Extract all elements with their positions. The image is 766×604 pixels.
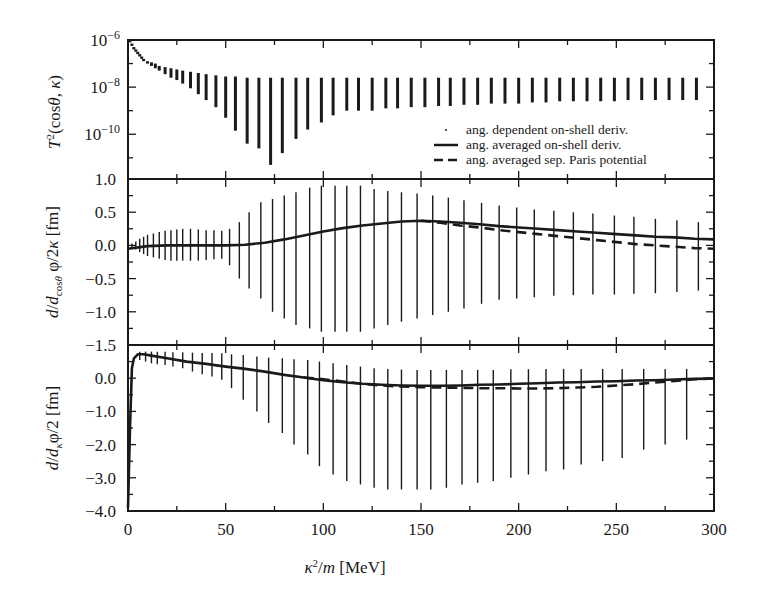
top-panel-ylabel: T2(cosθ, κ) (44, 75, 64, 149)
y-tick-label: −4.0 (85, 502, 116, 521)
legend-entry-averaged: ang. averaged on-shell deriv. (434, 137, 621, 152)
bottom-panel-ylabel: d/dκφ/2 [fm] (43, 386, 64, 471)
averaged-solid-curve (128, 354, 714, 507)
panel-frame (128, 345, 714, 511)
tick-labels: 10−610−810−101.00.50.0−0.5−1.0−1.50.0−1.… (84, 28, 727, 539)
y-tick-label: −0.5 (85, 270, 116, 289)
legend-entry-paris: ang. averaged sep. Paris potential (434, 152, 647, 167)
x-tick-label: 0 (124, 520, 133, 539)
x-tick-label: 150 (408, 520, 434, 539)
legend-label: ang. dependent on-shell deriv. (466, 122, 628, 137)
x-tick-label: 50 (217, 520, 234, 539)
x-tick-label: 200 (506, 520, 532, 539)
three-panel-plot: 10−610−810−101.00.50.0−0.5−1.0−1.50.0−1.… (0, 0, 766, 604)
y-tick-label: −1.0 (85, 402, 116, 421)
angle-dependent-bands (130, 41, 698, 489)
axis-ticks (128, 40, 714, 511)
legend-label: ang. averaged on-shell deriv. (466, 137, 621, 152)
legend-label: ang. averaged sep. Paris potential (466, 152, 647, 167)
y-tick-label: 0.0 (95, 236, 116, 255)
y-tick-label: −3.0 (85, 469, 116, 488)
plot-frame (128, 40, 714, 511)
panel-frame (128, 179, 714, 345)
x-axis-label: κ2/m [MeV] (304, 557, 385, 577)
figure: 10−610−810−101.00.50.0−0.5−1.0−1.50.0−1.… (0, 0, 766, 604)
legend-entry-dependent: ang. dependent on-shell deriv. (445, 122, 628, 137)
x-tick-label: 100 (311, 520, 337, 539)
paris-dashed-curve (421, 221, 714, 249)
y-tick-label: 0.0 (95, 369, 116, 388)
y-tick-label: −1.0 (85, 303, 116, 322)
y-tick-label: −2.0 (85, 436, 116, 455)
dot-marker-icon (445, 129, 447, 131)
y-tick-label: 0.5 (95, 203, 116, 222)
y-tick-label: 10−6 (90, 28, 120, 50)
legend: ang. dependent on-shell deriv. ang. aver… (434, 122, 647, 167)
y-tick-label: 10−8 (90, 75, 120, 97)
x-tick-label: 300 (701, 520, 727, 539)
y-tick-label: 10−10 (84, 122, 120, 144)
averaged-solid-curve (128, 221, 714, 249)
y-tick-label: 1.0 (95, 170, 116, 189)
averaged-curves (128, 221, 714, 508)
x-tick-label: 250 (604, 520, 630, 539)
middle-panel-ylabel: d/dcosθ φ/2κ [fm] (43, 206, 64, 318)
y-tick-label: −1.5 (85, 336, 116, 355)
